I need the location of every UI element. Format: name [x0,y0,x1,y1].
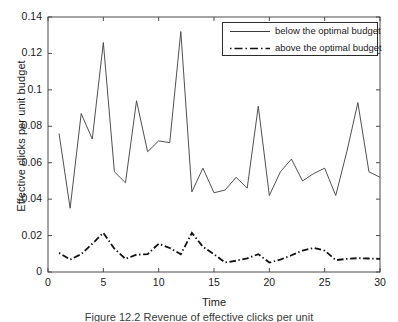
data-series [59,32,380,263]
x-tick-label: 25 [310,276,340,288]
legend-line-sample-dashdot [229,40,271,57]
series-line-above [59,233,380,263]
x-tick-label: 15 [199,276,229,288]
legend-label-below: below the optimal budget [275,25,381,36]
y-tick-label: 0.12 [2,46,42,58]
x-tick-label: 20 [254,276,284,288]
legend-entry-above: above the optimal budget [223,40,379,57]
figure-container: Effective clicks per unit budget Time 00… [0,0,398,322]
y-tick-label: 0.04 [2,192,42,204]
chart-legend: below the optimal budget above the optim… [222,22,378,56]
y-tick-label: 0.06 [2,156,42,168]
x-axis-label: Time [48,296,380,308]
y-tick-label: 0.08 [2,119,42,131]
y-tick-label: 0.14 [2,10,42,22]
series-line-below [59,32,380,209]
figure-caption: Figure 12.2 Revenue of effective clicks … [0,311,398,322]
x-tick-label: 10 [144,276,174,288]
y-tick-label: 0.1 [2,83,42,95]
legend-line-sample-solid [229,23,271,40]
legend-entry-below: below the optimal budget [223,23,379,40]
y-tick-label: 0.02 [2,229,42,241]
x-tick-label: 0 [33,276,63,288]
legend-label-above: above the optimal budget [275,42,382,53]
x-tick-label: 30 [365,276,395,288]
x-tick-label: 5 [88,276,118,288]
